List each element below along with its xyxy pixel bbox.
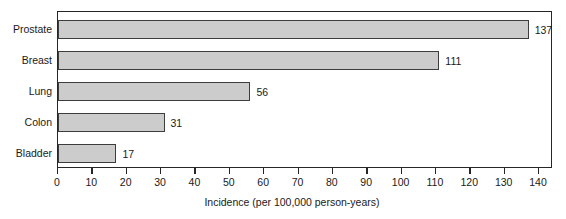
bar-value-label: 56 [256, 86, 268, 97]
bar-chart: ProstateBreastLungColonBladder 137111563… [0, 0, 566, 219]
category-label-prostate: Prostate [0, 19, 52, 38]
x-tick-mark [504, 168, 505, 174]
bar-breast [58, 51, 439, 70]
bar-row: 31 [58, 113, 553, 132]
bar-value-label: 137 [535, 24, 553, 35]
x-tick-mark [298, 168, 299, 174]
bar-value-label: 111 [445, 55, 461, 66]
x-tick-mark [263, 168, 264, 174]
bar-lung [58, 82, 250, 101]
x-tick-mark [126, 168, 127, 174]
x-tick-mark [229, 168, 230, 174]
x-tick-mark [57, 168, 58, 174]
bar-row: 56 [58, 82, 553, 101]
category-label-colon: Colon [0, 112, 52, 131]
x-tick-mark [366, 168, 367, 174]
x-tick-mark [469, 168, 470, 174]
x-axis-title: Incidence (per 100,000 person-years) [0, 197, 566, 208]
bar-value-label: 17 [122, 148, 134, 159]
bar-colon [58, 113, 165, 132]
bar-row: 111 [58, 51, 553, 70]
bar-row: 137 [58, 20, 553, 39]
x-tick-mark [401, 168, 402, 174]
bar-value-label: 31 [171, 117, 183, 128]
x-tick-mark [194, 168, 195, 174]
x-tick-mark [538, 168, 539, 174]
x-tick-mark [160, 168, 161, 174]
bar-row: 17 [58, 144, 553, 163]
bar-prostate [58, 20, 529, 39]
x-axis-title-text: Incidence (per 100,000 person-years) [204, 196, 379, 208]
x-tick-mark [91, 168, 92, 174]
plot-area: 137111563117 [57, 11, 552, 168]
x-tick-label: 140 [518, 177, 558, 188]
category-label-bladder: Bladder [0, 143, 52, 162]
x-tick-mark [332, 168, 333, 174]
bar-bladder [58, 144, 116, 163]
category-label-lung: Lung [0, 81, 52, 100]
x-tick-mark [435, 168, 436, 174]
category-label-breast: Breast [0, 50, 52, 69]
